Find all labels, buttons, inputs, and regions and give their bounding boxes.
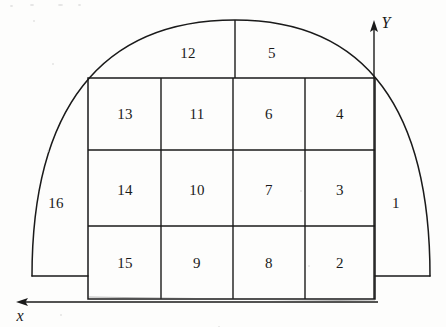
y-axis-label: Y bbox=[382, 14, 391, 32]
region-label-1: 1 bbox=[392, 195, 400, 212]
region-label-3: 3 bbox=[336, 182, 344, 199]
region-label-11: 11 bbox=[189, 106, 204, 123]
figure-canvas: 1 2 3 4 5 6 7 8 9 10 11 12 13 14 15 16 Y… bbox=[0, 0, 446, 327]
scan-speck bbox=[60, 314, 62, 316]
region-label-9: 9 bbox=[193, 255, 201, 272]
region-label-7: 7 bbox=[265, 182, 273, 199]
region-label-5: 5 bbox=[268, 45, 276, 62]
scan-speck bbox=[58, 4, 63, 6]
scan-speck bbox=[10, 5, 13, 7]
region-label-15: 15 bbox=[117, 255, 133, 272]
region-label-12: 12 bbox=[180, 45, 196, 62]
scan-speck bbox=[78, 4, 81, 6]
region-label-13: 13 bbox=[117, 106, 133, 123]
scan-speck bbox=[33, 20, 35, 22]
region-label-2: 2 bbox=[336, 255, 344, 272]
scan-speck bbox=[30, 4, 34, 6]
region-label-10: 10 bbox=[189, 182, 205, 199]
region-label-16: 16 bbox=[48, 195, 64, 212]
region-label-4: 4 bbox=[336, 106, 344, 123]
scan-speck bbox=[47, 150, 49, 152]
region-label-14: 14 bbox=[117, 182, 133, 199]
scan-speck bbox=[300, 190, 302, 192]
outer-arc-path bbox=[32, 20, 430, 276]
region-partition-diagram bbox=[0, 0, 446, 327]
x-axis-label: x bbox=[16, 307, 23, 325]
region-label-8: 8 bbox=[265, 255, 273, 272]
scan-speck bbox=[52, 63, 54, 65]
scan-speck bbox=[308, 265, 310, 267]
region-label-6: 6 bbox=[265, 106, 273, 123]
